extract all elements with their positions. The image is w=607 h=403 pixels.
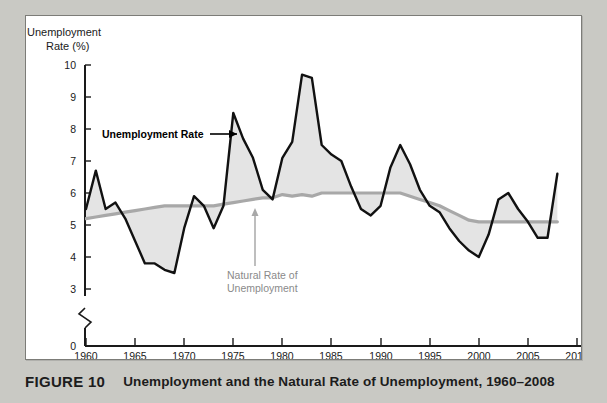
x-tick-1990: 1990 [369, 350, 393, 359]
y-tick-5: 5 [70, 219, 76, 231]
natural-rate-annotation-line1: Natural Rate of [227, 269, 298, 281]
y-axis-break-symbol [79, 308, 91, 328]
x-tick-1995: 1995 [418, 350, 442, 359]
natural-rate-annotation: Natural Rate of Unemployment [227, 208, 298, 294]
x-tick-1975: 1975 [221, 350, 245, 359]
y-tick-8: 8 [70, 123, 76, 135]
x-tick-1980: 1980 [270, 350, 294, 359]
y-tick-7: 7 [70, 155, 76, 167]
x-axis-ticks [86, 338, 577, 346]
x-tick-2000: 2000 [467, 350, 491, 359]
x-tick-2010: 2010 [565, 350, 581, 359]
figure-caption: FIGURE 10 Unemployment and the Natural R… [25, 366, 585, 396]
natural-rate-arrow-head [252, 208, 259, 216]
y-tick-3: 3 [70, 283, 76, 295]
figure-number-label: FIGURE 10 [25, 373, 105, 390]
x-tick-1970: 1970 [172, 350, 196, 359]
y-axis-title-line2: Rate (%) [46, 40, 89, 52]
figure-container: Unemployment Rate (%) 10 [0, 0, 607, 403]
natural-rate-annotation-line2: Unemployment [227, 282, 298, 294]
unemployment-chart: Unemployment Rate (%) 10 [26, 16, 581, 359]
figure-title: Unemployment and the Natural Rate of Une… [123, 374, 554, 389]
x-tick-1960: 1960 [74, 350, 98, 359]
x-tick-1985: 1985 [319, 350, 343, 359]
y-axis-tick-labels: 10 9 8 7 6 5 4 3 0 [64, 59, 76, 352]
x-axis-tick-labels: 1960 1965 1970 1975 1980 1985 1990 1995 … [74, 350, 581, 359]
gap-shading-area [86, 75, 557, 273]
y-tick-6: 6 [70, 187, 76, 199]
chart-plot-panel: Unemployment Rate (%) 10 [25, 15, 582, 360]
unemployment-rate-annotation-label: Unemployment Rate [102, 128, 204, 140]
y-tick-4: 4 [70, 251, 76, 263]
x-tick-2005: 2005 [516, 350, 540, 359]
y-tick-10: 10 [64, 59, 76, 71]
x-tick-1965: 1965 [123, 350, 147, 359]
y-tick-9: 9 [70, 91, 76, 103]
y-axis-title-line1: Unemployment [27, 26, 101, 38]
unemployment-rate-annotation: Unemployment Rate [102, 128, 237, 140]
